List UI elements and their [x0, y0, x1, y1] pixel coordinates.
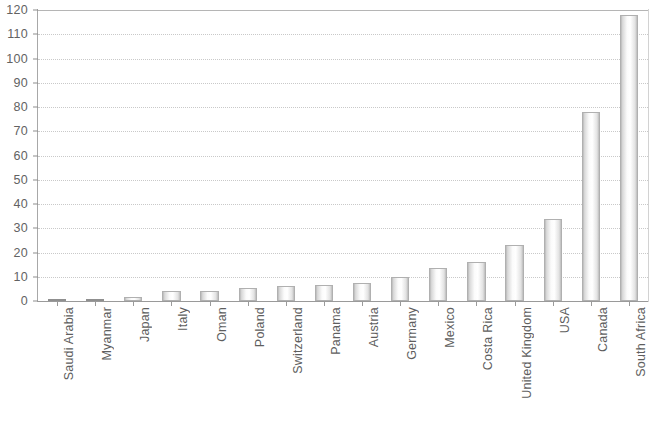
y-axis-tick-mark — [33, 58, 38, 59]
y-axis-tick-mark — [33, 179, 38, 180]
y-axis-tick-label: 100 — [6, 52, 28, 66]
x-axis-tick-label: Switzerland — [291, 307, 305, 374]
x-axis-tick-mark — [591, 302, 592, 306]
x-axis-tick-mark — [57, 302, 58, 306]
y-axis-tick-mark — [33, 228, 38, 229]
y-axis-tick-mark — [33, 252, 38, 253]
y-axis-tick-label: 120 — [6, 3, 28, 17]
x-axis-tick-mark — [553, 302, 554, 306]
y-axis-tick-mark — [33, 131, 38, 132]
x-axis-tick-label: South Africa — [634, 307, 648, 377]
y-axis-tick-label: 40 — [13, 197, 28, 211]
bar — [544, 219, 562, 301]
x-axis-tick-mark — [476, 302, 477, 306]
y-axis-tick-label: 30 — [13, 221, 28, 235]
bar-chart: 1201101009080706050403020100 Saudi Arabi… — [0, 0, 652, 441]
bar — [124, 297, 142, 301]
x-axis-tick-mark — [95, 302, 96, 306]
x-axis-tick-mark — [400, 302, 401, 306]
x-axis-tick-mark — [629, 302, 630, 306]
bar — [86, 299, 104, 301]
gridline — [38, 301, 648, 302]
x-axis-tick-label: Japan — [138, 307, 152, 342]
x-axis-tick-label: Costa Rica — [481, 307, 495, 370]
x-axis-tick-mark — [210, 302, 211, 306]
bar — [391, 277, 409, 301]
y-axis-tick-label: 0 — [21, 294, 28, 308]
x-axis-tick-mark — [133, 302, 134, 306]
x-axis-tick-label: Poland — [253, 307, 267, 347]
x-axis-tick-mark — [438, 302, 439, 306]
bar — [353, 283, 371, 301]
x-axis-tick-label: Panama — [329, 307, 343, 355]
y-axis-tick-mark — [33, 10, 38, 11]
y-axis-tick-label: 90 — [13, 76, 28, 90]
y-axis-tick-mark — [33, 34, 38, 35]
x-axis-tick-label: Italy — [176, 307, 190, 331]
x-axis: Saudi ArabiaMyanmarJapanItalyOmanPolandS… — [38, 303, 648, 441]
bar — [162, 291, 180, 301]
bar — [239, 288, 257, 301]
x-axis-tick-label: Mexico — [443, 307, 457, 348]
bars-layer — [38, 10, 648, 301]
y-axis-tick-mark — [33, 82, 38, 83]
bar — [200, 291, 218, 301]
x-axis-tick-mark — [286, 302, 287, 306]
plot-right-edge — [648, 9, 649, 302]
y-axis-tick-mark — [33, 107, 38, 108]
x-axis-tick-mark — [248, 302, 249, 306]
y-axis-tick-label: 110 — [7, 27, 28, 41]
bar — [48, 299, 66, 301]
bar — [429, 268, 447, 301]
bar — [467, 262, 485, 301]
x-axis-tick-label: United Kingdom — [520, 307, 534, 399]
bar — [315, 285, 333, 301]
bar — [620, 15, 638, 301]
y-axis-tick-label: 20 — [13, 246, 28, 260]
plot-area — [38, 10, 648, 301]
bar — [582, 112, 600, 301]
y-axis-tick-label: 80 — [13, 100, 28, 114]
y-axis-tick-mark — [33, 301, 38, 302]
y-axis-tick-mark — [33, 204, 38, 205]
x-axis-tick-mark — [515, 302, 516, 306]
x-axis-tick-label: USA — [558, 307, 572, 333]
y-axis-tick-label: 60 — [13, 149, 28, 163]
x-axis-tick-label: Saudi Arabia — [62, 307, 76, 380]
x-axis-tick-label: Austria — [367, 307, 381, 347]
y-axis-tick-label: 50 — [13, 173, 28, 187]
y-axis-tick-label: 10 — [13, 270, 28, 284]
x-axis-tick-mark — [324, 302, 325, 306]
bar — [277, 286, 295, 301]
x-axis-tick-mark — [171, 302, 172, 306]
x-axis-tick-label: Germany — [405, 307, 419, 360]
y-axis: 1201101009080706050403020100 — [0, 0, 34, 305]
y-axis-tick-mark — [33, 276, 38, 277]
x-axis-tick-label: Myanmar — [100, 307, 114, 361]
x-axis-tick-label: Oman — [215, 307, 229, 342]
x-axis-tick-mark — [362, 302, 363, 306]
y-axis-tick-label: 70 — [13, 124, 28, 138]
y-axis-tick-mark — [33, 155, 38, 156]
x-axis-tick-label: Canada — [596, 307, 610, 352]
bar — [505, 245, 523, 301]
